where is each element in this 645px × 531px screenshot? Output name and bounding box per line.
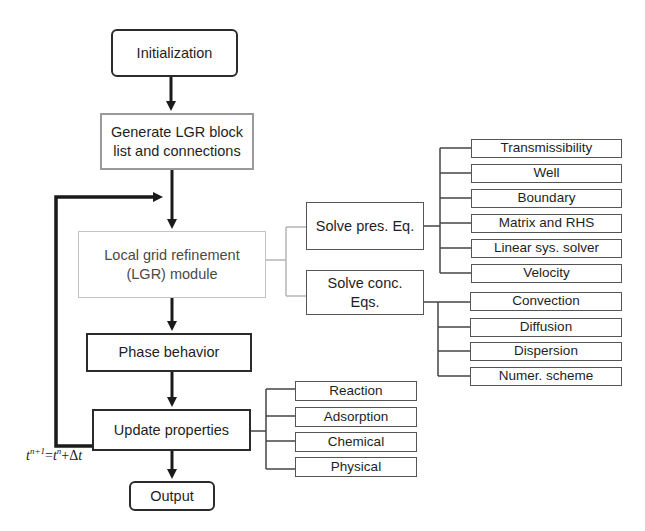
conc-subitem-diffusion: Diffusion: [470, 318, 622, 337]
solve-pressure-label: Solve pres. Eq.: [316, 217, 414, 235]
subitem-label: Reaction: [329, 383, 382, 400]
subitem-label: Velocity: [523, 265, 570, 282]
pres-subitem-linear-solver: Linear sys. solver: [471, 239, 622, 258]
update-properties-label: Update properties: [114, 421, 229, 439]
pres-subitem-boundary: Boundary: [471, 189, 622, 208]
subitem-label: Physical: [331, 459, 381, 476]
lgr-module-label-line2: (LGR) module: [126, 265, 217, 283]
subitem-label: Boundary: [518, 190, 576, 207]
subitem-label: Numer. scheme: [499, 368, 594, 385]
pres-subitem-transmissibility: Transmissibility: [471, 139, 622, 158]
update-subitem-reaction: Reaction: [295, 381, 417, 401]
update-subitem-chemical: Chemical: [295, 432, 417, 452]
output-box: Output: [129, 481, 215, 511]
generate-lgr-box: Generate LGR block list and connections: [100, 113, 254, 170]
time-step-formula: tn+1=tn+Δt: [26, 446, 82, 464]
subitem-label: Transmissibility: [501, 140, 593, 157]
phase-behavior-box: Phase behavior: [86, 333, 252, 372]
pres-subitem-velocity: Velocity: [471, 264, 622, 283]
conc-subitem-numer-scheme: Numer. scheme: [470, 367, 622, 386]
subitem-label: Linear sys. solver: [494, 240, 599, 257]
conc-subitem-convection: Convection: [470, 292, 622, 311]
conc-subitem-dispersion: Dispersion: [470, 342, 622, 361]
update-subitem-physical: Physical: [295, 457, 417, 477]
initialization-label: Initialization: [137, 44, 213, 62]
generate-lgr-label-line2: list and connections: [113, 142, 240, 160]
solve-concentration-box: Solve conc. Eqs.: [306, 270, 424, 315]
solve-concentration-label-line2: Eqs.: [350, 293, 379, 311]
phase-behavior-label: Phase behavior: [119, 343, 220, 361]
subitem-label: Matrix and RHS: [499, 215, 594, 232]
subitem-label: Well: [533, 165, 559, 182]
solve-pressure-box: Solve pres. Eq.: [306, 202, 424, 250]
subitem-label: Convection: [512, 293, 580, 310]
subitem-label: Diffusion: [520, 319, 572, 336]
output-label: Output: [150, 487, 194, 505]
solve-concentration-label-line1: Solve conc.: [328, 274, 403, 292]
subitem-label: Dispersion: [514, 343, 578, 360]
pres-subitem-matrix-rhs: Matrix and RHS: [471, 214, 622, 233]
lgr-module-box: Local grid refinement (LGR) module: [78, 231, 266, 298]
update-properties-box: Update properties: [92, 409, 251, 451]
lgr-module-label-line1: Local grid refinement: [104, 246, 239, 264]
pres-subitem-well: Well: [471, 164, 622, 183]
subitem-label: Chemical: [328, 434, 384, 451]
initialization-box: Initialization: [111, 29, 238, 77]
generate-lgr-label-line1: Generate LGR block: [111, 123, 243, 141]
update-subitem-adsorption: Adsorption: [295, 407, 417, 427]
subitem-label: Adsorption: [324, 409, 389, 426]
